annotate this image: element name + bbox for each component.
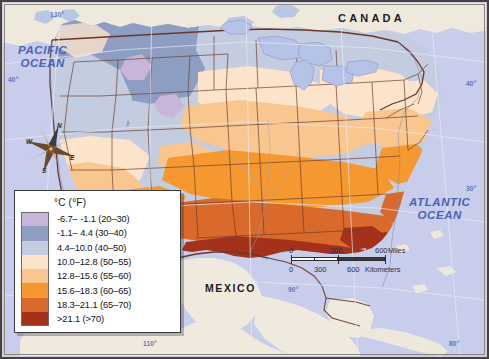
scale-km-tick-600: 600 (347, 265, 360, 274)
scale-miles-tick-0: 0 (289, 246, 293, 255)
legend-swatch-3 (21, 255, 49, 269)
legend-swatch-7 (21, 312, 49, 326)
legend-entry: 18.3–21.1 (65–70) (21, 298, 174, 312)
legend-entry: 15.6–18.3 (60–65) (21, 283, 174, 297)
scale-bar-graphic (289, 257, 417, 264)
legend-label-3: 10.0–12.8 (50–55) (57, 257, 131, 267)
compass-east-label: E (70, 154, 74, 161)
legend-title: °C (°F) (54, 197, 174, 208)
compass-rose: N E S W (20, 118, 82, 180)
legend-label-0: -6.7– -1.1 (20–30) (57, 214, 130, 224)
legend-swatch-4 (21, 269, 49, 283)
scale-miles-unit: Miles (388, 246, 406, 255)
scale-miles-tick-600: 600 (375, 246, 388, 255)
legend-swatch-0 (21, 212, 49, 226)
legend-entry: 4.4–10.0 (40–50) (21, 241, 174, 255)
legend-entry: -1.1– 4.4 (30–40) (21, 226, 174, 240)
legend-swatch-6 (21, 298, 49, 312)
compass-west-label: W (26, 138, 32, 145)
legend-entry: -6.7– -1.1 (20–30) (21, 212, 174, 226)
legend-label-2: 4.4–10.0 (40–50) (57, 243, 126, 253)
scale-km-unit: Kilometers (365, 265, 400, 274)
compass-rose-star (20, 118, 82, 180)
scale-bar: 0 300 600 Miles 0 300 600 Kilometers (289, 246, 417, 276)
legend-entry: >21.1 (>70) (21, 312, 174, 326)
compass-north-label: N (57, 122, 62, 129)
scale-miles-labels: 0 300 600 Miles (289, 246, 417, 257)
scale-km-labels: 0 300 600 Kilometers (289, 265, 417, 276)
legend-label-5: 15.6–18.3 (60–65) (57, 286, 131, 296)
legend-swatch-2 (21, 241, 49, 255)
scale-km-tick-0: 0 (289, 265, 293, 274)
scale-miles-tick-300: 300 (330, 246, 343, 255)
legend-entry: 10.0–12.8 (50–55) (21, 255, 174, 269)
legend-label-7: >21.1 (>70) (57, 314, 104, 324)
legend-label-6: 18.3–21.1 (65–70) (57, 300, 131, 310)
legend-swatch-1 (21, 226, 49, 240)
legend-entry: 12.8–15.6 (55–60) (21, 269, 174, 283)
legend-swatch-5 (21, 283, 49, 297)
legend-entry-list: -6.7– -1.1 (20–30) -1.1– 4.4 (30–40) 4.4… (21, 212, 174, 326)
compass-south-label: S (42, 167, 46, 174)
temperature-map-figure: PACIFIC OCEAN ATLANTIC OCEAN CANADA MEXI… (0, 0, 489, 359)
map-legend: °C (°F) -6.7– -1.1 (20–30) -1.1– 4.4 (30… (14, 190, 181, 333)
legend-label-4: 12.8–15.6 (55–60) (57, 271, 131, 281)
scale-km-tick-300: 300 (314, 265, 327, 274)
legend-label-1: -1.1– 4.4 (30–40) (57, 228, 127, 238)
